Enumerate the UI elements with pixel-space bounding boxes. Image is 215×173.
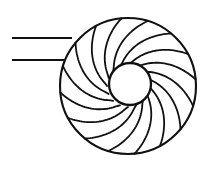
lead-lines-group bbox=[12, 38, 72, 60]
hub-circle bbox=[109, 63, 151, 105]
impeller-diagram bbox=[0, 0, 215, 173]
figure-root bbox=[0, 0, 215, 173]
